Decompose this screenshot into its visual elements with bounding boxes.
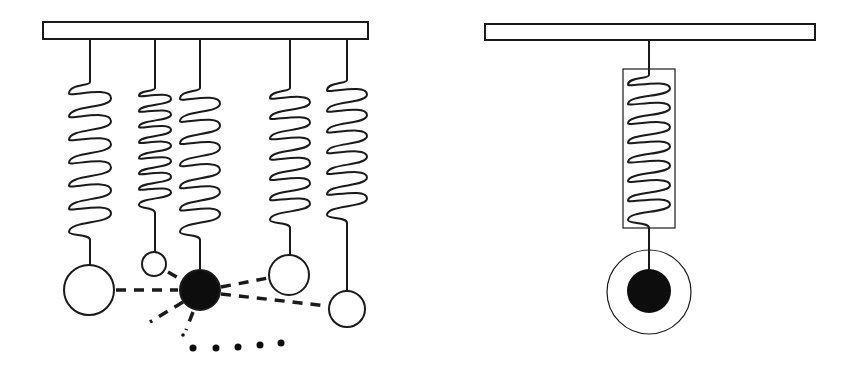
mass-filled-circle xyxy=(627,269,671,313)
mass-circle-5 xyxy=(329,291,365,327)
dashed-interaction-line xyxy=(221,294,328,306)
mass-filled-circle xyxy=(180,270,220,310)
ceiling-bar xyxy=(485,24,815,40)
spring-coil-1 xyxy=(69,39,111,265)
spring-coil xyxy=(628,40,670,269)
dashed-interaction-line xyxy=(168,272,182,280)
dot-trail xyxy=(181,333,185,337)
spring-coil-2 xyxy=(139,39,171,252)
dot-trail xyxy=(235,344,242,351)
spring-coil-3 xyxy=(180,39,220,270)
dashed-interaction-line xyxy=(186,312,193,330)
dot-trail xyxy=(213,345,220,352)
mass-circle-1 xyxy=(64,265,114,315)
right-panel-single-spring xyxy=(485,24,815,334)
diagram-canvas xyxy=(0,0,859,370)
dashed-interaction-line xyxy=(221,278,268,287)
dot-trail xyxy=(278,340,285,347)
dot-trail xyxy=(190,345,197,352)
left-panel-many-springs xyxy=(43,22,368,352)
mass-circle-2 xyxy=(142,252,166,276)
dashed-interaction-line xyxy=(150,302,183,322)
spring-mass-diagram: Two spring-mass figures: left shows five… xyxy=(0,0,859,370)
spring-coil-5 xyxy=(327,39,367,291)
ceiling-bar xyxy=(43,22,368,39)
spring-coil-4 xyxy=(270,39,310,255)
mass-circle-4 xyxy=(269,255,309,295)
dot-trail xyxy=(257,342,264,349)
